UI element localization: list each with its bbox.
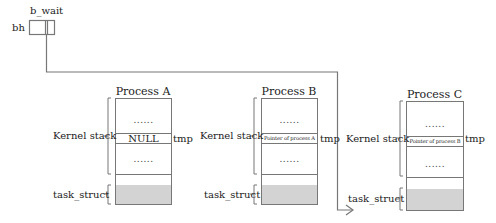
tmp-label: tmp — [465, 134, 485, 144]
process-b-title: Process B — [261, 86, 317, 97]
ellipsis: ...... — [116, 154, 171, 164]
b-wait-label: b_wait — [30, 6, 63, 16]
divider — [262, 174, 317, 175]
ellipsis: ...... — [407, 159, 463, 169]
process-c-title: Process C — [406, 89, 463, 100]
ellipsis: ...... — [407, 119, 463, 129]
kernel-stack-label: Kernel stack — [346, 134, 409, 144]
task-struct-label: task_struct — [204, 190, 260, 200]
divider — [116, 174, 171, 175]
tmp-cell: Pointer of process A — [262, 133, 317, 144]
process-b-stack: ...... Pointer of process A ...... — [261, 98, 318, 205]
task-struct-fill — [407, 189, 463, 210]
task-struct-fill — [262, 185, 317, 204]
tmp-label: tmp — [173, 134, 193, 144]
process-a-stack: ...... NULL ...... — [115, 98, 172, 205]
tmp-label: tmp — [320, 134, 340, 144]
ellipsis: ...... — [262, 154, 317, 164]
ellipsis: ...... — [262, 115, 317, 125]
tmp-cell: Pointer of process B — [407, 136, 463, 147]
task-struct-fill — [116, 185, 171, 204]
kernel-stack-label: Kernel stack — [53, 131, 116, 141]
ellipsis: ...... — [116, 115, 171, 125]
process-c-stack: ...... Pointer of process B ...... — [406, 101, 464, 211]
bh-box — [30, 21, 55, 35]
tmp-cell: NULL — [116, 133, 171, 144]
kernel-stack-label: Kernel stack — [200, 131, 263, 141]
process-a-title: Process A — [115, 86, 171, 97]
task-struct-label: task_struct — [53, 190, 109, 200]
divider — [407, 177, 463, 178]
task-struct-label: task_struct — [348, 194, 404, 204]
bh-label: bh — [12, 23, 25, 33]
